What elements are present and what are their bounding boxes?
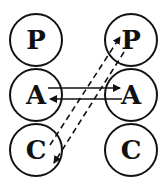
left-child-label: C — [26, 135, 47, 165]
right-child-label: C — [121, 135, 142, 165]
parent-to-child-arrow — [54, 52, 124, 163]
left-parent-label: P — [26, 25, 46, 55]
left-adult-label: A — [25, 80, 47, 110]
right-parent-label: P — [121, 25, 141, 55]
pac-diagram: P A C P A C — [0, 0, 168, 188]
right-adult-label: A — [120, 80, 142, 110]
